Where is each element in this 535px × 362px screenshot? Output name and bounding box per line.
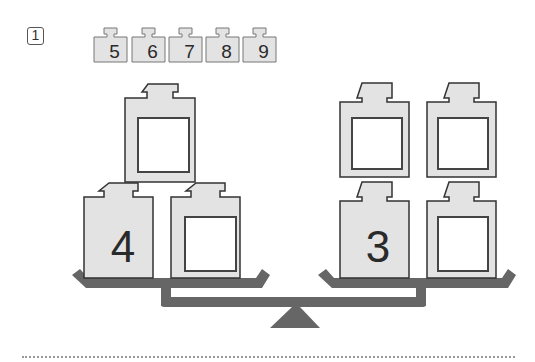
- weight-option-label: 6: [147, 41, 158, 62]
- answer-slot[interactable]: [185, 217, 236, 271]
- weight-option-7[interactable]: 7: [169, 28, 202, 62]
- weight-left-top: [125, 84, 195, 182]
- answer-slot[interactable]: [438, 217, 488, 271]
- weight-option-6[interactable]: 6: [132, 28, 165, 62]
- weight-option-8[interactable]: 8: [206, 28, 239, 62]
- weight-left-bottom-1: 4: [84, 183, 153, 278]
- weight-right-top-2: [427, 83, 496, 177]
- answer-slot[interactable]: [438, 118, 488, 169]
- weight-value: 3: [366, 222, 390, 271]
- balance-scale-diagram: 5 6 7 8 9 4: [0, 0, 535, 362]
- answer-slot[interactable]: [138, 118, 189, 172]
- weight-option-5[interactable]: 5: [94, 28, 127, 62]
- weight-right-top-1: [340, 83, 409, 177]
- weight-option-label: 7: [184, 41, 195, 62]
- weight-option-label: 9: [258, 41, 269, 62]
- weight-option-9[interactable]: 9: [243, 28, 276, 62]
- answer-slot[interactable]: [352, 118, 402, 169]
- weight-value: 4: [111, 222, 135, 271]
- weight-options: 5 6 7 8 9: [94, 28, 276, 62]
- fulcrum: [270, 307, 320, 328]
- section-divider: [22, 356, 515, 358]
- weight-option-label: 8: [221, 41, 232, 62]
- weight-left-bottom-2: [171, 183, 240, 278]
- weight-right-bottom-1: 3: [340, 182, 409, 278]
- weight-option-label: 5: [109, 41, 120, 62]
- weight-right-bottom-2: [427, 182, 496, 278]
